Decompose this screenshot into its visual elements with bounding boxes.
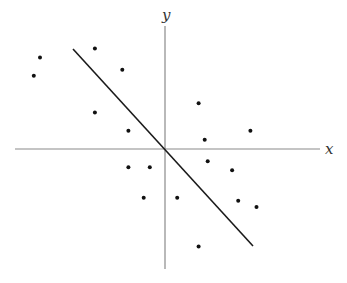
data-point — [126, 129, 130, 133]
data-point — [142, 196, 146, 200]
data-points — [32, 46, 259, 248]
data-point — [236, 199, 240, 203]
y-axis-label: y — [161, 6, 171, 24]
data-point — [197, 245, 201, 249]
data-point — [126, 165, 130, 169]
data-point — [148, 165, 152, 169]
x-axis-label: x — [325, 140, 334, 158]
data-point — [93, 46, 97, 50]
data-point — [248, 129, 252, 133]
data-point — [32, 74, 36, 78]
data-point — [175, 196, 179, 200]
data-point — [203, 138, 207, 142]
data-point — [206, 159, 210, 163]
data-point — [197, 101, 201, 105]
regression-line — [73, 49, 253, 246]
data-point — [230, 168, 234, 172]
scatter-plot: x y — [0, 0, 347, 283]
data-point — [120, 68, 124, 72]
data-point — [255, 205, 259, 209]
data-point — [38, 56, 42, 60]
data-point — [93, 110, 97, 114]
